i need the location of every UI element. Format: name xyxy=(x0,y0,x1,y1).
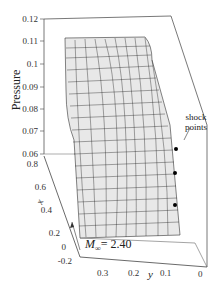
svg-text:0: 0 xyxy=(62,242,67,252)
svg-text:-0.2: -0.2 xyxy=(58,256,72,266)
frame-top-edge xyxy=(44,16,171,19)
svg-text:0.11: 0.11 xyxy=(23,36,38,46)
mach-label: M∞= 2.40 xyxy=(84,237,131,253)
x-axis-label: x xyxy=(33,197,45,206)
svg-text:0: 0 xyxy=(198,269,203,279)
svg-text:0.06: 0.06 xyxy=(22,149,38,159)
svg-text:0.09: 0.09 xyxy=(22,82,38,92)
flow-arrow-head xyxy=(70,222,74,228)
x-tick-labels: 0.8 0.6 0.4 0.2 0 -0.2 xyxy=(27,159,72,266)
y-axis xyxy=(80,257,207,267)
z-tick-labels: 0.12 0.11 0.1 0.09 0.08 0.07 0.06 xyxy=(22,14,38,159)
y-axis-label: y xyxy=(147,268,153,280)
surface-wireframe xyxy=(65,37,180,238)
svg-text:0.2: 0.2 xyxy=(49,228,60,238)
floor-right-edge xyxy=(195,243,207,267)
svg-text:0.1: 0.1 xyxy=(27,59,38,69)
floor-edge xyxy=(80,238,195,243)
svg-text:0.8: 0.8 xyxy=(27,159,39,169)
svg-text:0.07: 0.07 xyxy=(22,126,38,136)
svg-text:0.12: 0.12 xyxy=(22,14,38,24)
svg-text:0.3: 0.3 xyxy=(97,268,109,278)
svg-text:0.6: 0.6 xyxy=(35,182,47,192)
svg-text:0.1: 0.1 xyxy=(160,268,171,278)
shock-label-2: points xyxy=(185,122,208,132)
surface-plot: 0.12 0.11 0.1 0.09 0.08 0.07 0.06 Pressu… xyxy=(0,0,215,286)
svg-text:0.2: 0.2 xyxy=(128,268,139,278)
shock-label-1: shock xyxy=(186,112,207,122)
svg-text:0.4: 0.4 xyxy=(41,205,53,215)
svg-text:0.08: 0.08 xyxy=(22,104,38,114)
frame-right-slant xyxy=(171,16,207,125)
z-ticks xyxy=(40,19,44,154)
z-axis-label: Pressure xyxy=(9,70,23,111)
